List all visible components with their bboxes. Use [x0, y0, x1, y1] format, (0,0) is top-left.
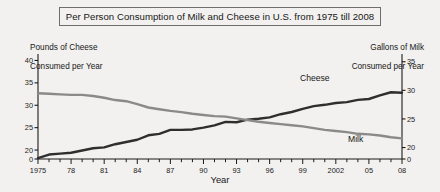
series-label-cheese: Cheese — [300, 73, 330, 83]
svg-text:40: 40 — [25, 56, 33, 65]
chart-title-box: Per Person Consumption of Milk and Chees… — [59, 7, 381, 26]
svg-text:20: 20 — [25, 146, 33, 155]
chart-root: Per Person Consumption of Milk and Chees… — [0, 0, 440, 192]
svg-text:35: 35 — [407, 57, 415, 66]
svg-text:0: 0 — [407, 155, 411, 164]
svg-text:25: 25 — [407, 115, 415, 124]
series-label-milk: Milk — [348, 134, 363, 144]
svg-text:35: 35 — [25, 78, 33, 87]
svg-text:30: 30 — [407, 86, 415, 95]
svg-text:25: 25 — [25, 123, 33, 132]
right-axis-caption-line1: Gallons of Milk — [370, 43, 424, 52]
svg-text:20: 20 — [407, 143, 415, 152]
svg-text:0: 0 — [29, 155, 33, 164]
svg-text:30: 30 — [25, 101, 33, 110]
page-title: Per Person Consumption of Milk and Chees… — [66, 11, 374, 22]
left-axis-caption-line1: Pounds of Cheese — [30, 43, 97, 52]
x-axis-title: Year — [0, 174, 440, 185]
